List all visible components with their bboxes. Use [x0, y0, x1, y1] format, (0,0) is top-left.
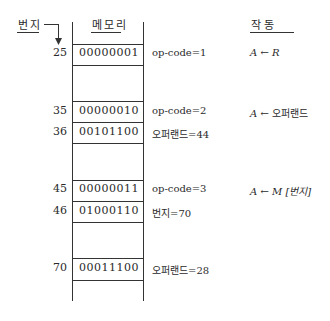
cell-divider	[72, 258, 144, 259]
address-label: 70	[43, 261, 67, 274]
cell-description: 오퍼랜드=28	[152, 262, 209, 277]
cell-divider	[72, 143, 144, 144]
action-text: A ← 오퍼랜드	[250, 105, 308, 120]
memory-header-underline	[91, 32, 121, 33]
cell-divider	[72, 222, 144, 223]
cell-description: op-code=3	[152, 183, 206, 194]
address-header-underline	[17, 32, 39, 33]
address-pointer-line	[44, 24, 59, 25]
memory-header: 메모리	[92, 16, 128, 32]
address-label: 46	[43, 204, 67, 217]
action-source: 오퍼랜드	[272, 108, 308, 119]
cell-divider	[72, 101, 144, 102]
action-header-underline	[250, 32, 294, 33]
arrow-down-icon	[54, 38, 63, 46]
cell-description: 오퍼랜드=44	[152, 126, 209, 141]
cell-divider	[72, 65, 144, 66]
address-label: 25	[43, 46, 67, 59]
memory-cell-value: 00000011	[79, 182, 139, 195]
cell-divider	[72, 280, 144, 281]
action-register: A	[250, 108, 257, 119]
action-register: A	[250, 186, 257, 197]
address-label: 35	[43, 104, 67, 117]
cell-divider	[72, 201, 144, 202]
cell-divider	[72, 180, 144, 181]
action-source: R	[272, 47, 280, 58]
left-arrow-icon: ←	[260, 47, 268, 58]
memory-cell-value: 00101100	[79, 125, 139, 138]
memory-cell-value: 00000001	[79, 46, 139, 59]
address-label: 36	[43, 125, 67, 138]
action-register: A	[250, 47, 257, 58]
cell-divider	[72, 122, 144, 123]
memory-right-border	[143, 22, 144, 301]
memory-cell-value: 00000010	[79, 104, 139, 117]
left-arrow-icon: ←	[260, 108, 268, 119]
cell-divider	[72, 44, 144, 45]
memory-cell-value: 01000110	[79, 204, 139, 217]
cell-description: op-code=2	[152, 105, 206, 116]
memory-left-border	[72, 22, 73, 301]
action-source: M [번지]	[272, 186, 311, 197]
action-header: 작 동	[251, 16, 275, 32]
cell-description: 번지=70	[152, 205, 191, 220]
memory-cell-value: 00011100	[79, 261, 139, 274]
cell-description: op-code=1	[152, 47, 206, 58]
left-arrow-icon: ←	[260, 186, 268, 197]
action-text: A ← R	[250, 47, 280, 58]
address-label: 45	[43, 182, 67, 195]
address-header: 번지	[18, 16, 42, 32]
action-text: A ← M [번지]	[250, 183, 311, 198]
